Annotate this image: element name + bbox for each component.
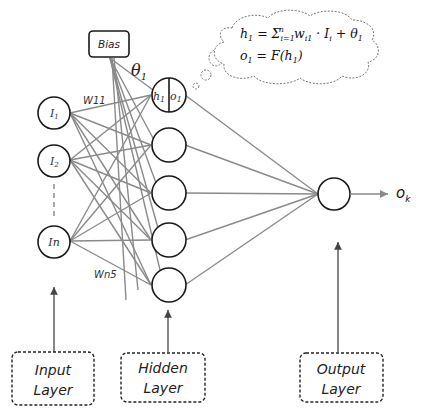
hidden-node-3 bbox=[152, 176, 186, 210]
output-layer-box: Output Layer bbox=[300, 353, 383, 402]
svg-text:Output: Output bbox=[317, 361, 366, 377]
svg-text:In: In bbox=[47, 236, 59, 249]
theta-label: θ1 bbox=[131, 61, 147, 82]
equation-hidden-sum: h1 = Σi=1nwi1 · Ii + θ1 bbox=[240, 25, 363, 43]
hidden-node-1: h1 o1 bbox=[152, 78, 186, 112]
svg-text:Input: Input bbox=[35, 362, 72, 378]
input-layer-nodes: I1 I2 In bbox=[38, 97, 70, 258]
hidden-node-4 bbox=[152, 223, 186, 257]
thought-bubble-small bbox=[193, 83, 199, 89]
weight-label-w11: W11 bbox=[83, 95, 106, 106]
cloud-shape bbox=[214, 10, 378, 84]
output-label: ok bbox=[396, 184, 411, 204]
hidden-output-connections bbox=[185, 95, 318, 285]
neural-network-diagram: h1 = Σi=1nwi1 · Ii + θ1 o1 = F(h1) Bias … bbox=[0, 0, 424, 416]
thought-bubble-medium bbox=[201, 70, 211, 80]
svg-text:Layer: Layer bbox=[321, 381, 361, 397]
bias-label: Bias bbox=[98, 38, 121, 50]
input-layer-box: Input Layer bbox=[12, 352, 94, 405]
equation-thought-cloud: h1 = Σi=1nwi1 · Ii + θ1 o1 = F(h1) bbox=[193, 10, 378, 89]
input-node-n: In bbox=[38, 226, 70, 258]
input-node-2: I2 bbox=[38, 145, 70, 177]
svg-text:Layer: Layer bbox=[143, 380, 183, 396]
bias-node: Bias bbox=[89, 31, 129, 57]
hidden-layer-nodes: h1 o1 bbox=[152, 78, 186, 302]
hidden-node-2 bbox=[152, 128, 186, 162]
svg-text:Hidden: Hidden bbox=[138, 360, 188, 376]
weight-label-wn5: Wn5 bbox=[94, 269, 117, 280]
hidden-layer-box: Hidden Layer bbox=[121, 353, 205, 402]
hidden-node-5 bbox=[152, 268, 186, 302]
input-node-1: I1 bbox=[38, 97, 70, 129]
output-node bbox=[318, 178, 350, 210]
svg-text:Layer: Layer bbox=[33, 382, 73, 398]
input-hidden-connections bbox=[70, 95, 151, 285]
